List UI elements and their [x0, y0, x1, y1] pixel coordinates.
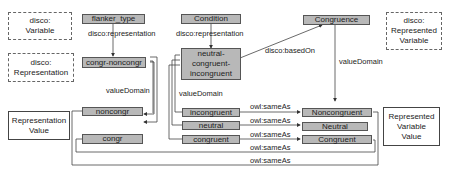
- node-neutral-congruent-incongruent: neutral- congruent- incongruent: [181, 48, 241, 80]
- disco-represented-variable-box: disco: Represented Variable: [386, 12, 442, 50]
- label-valuedomain-left: valueDomain: [106, 86, 150, 95]
- node-congruence: Congruence: [303, 15, 370, 25]
- label-valuedomain-mid: valueDomain: [179, 89, 223, 98]
- disco-variable-box: disco: Variable: [8, 12, 72, 40]
- node-incongruent: incongruent: [182, 108, 240, 117]
- label-sameas-1: owl:sameAs: [250, 102, 290, 111]
- node-congr-noncongr: congr-noncongr: [82, 57, 146, 68]
- represented-variable-value-box: Represented Variable Value: [383, 107, 440, 146]
- node-Neutral: Neutral: [302, 122, 368, 131]
- node-Noncongruent: Noncongruent: [302, 108, 372, 117]
- node-neutral: neutral: [182, 121, 240, 130]
- label-sameas-4: owl:sameAs: [250, 143, 290, 152]
- label-flanker-representation: disco:representation: [88, 29, 156, 38]
- node-condition: Condition: [181, 14, 241, 24]
- label-sameas-5: owl:sameAs: [250, 156, 290, 165]
- node-noncongr: noncongr: [82, 107, 143, 116]
- label-sameas-2: owl:sameAs: [250, 116, 290, 125]
- representation-value-box: Representation Value: [8, 111, 70, 140]
- node-Congruent: Congruent: [302, 135, 372, 144]
- label-sameas-3: owl:sameAs: [250, 130, 290, 139]
- disco-representation-box: disco: Representation: [8, 53, 74, 82]
- label-valuedomain-right: valueDomain: [339, 57, 383, 66]
- label-condition-representation: disco:representation: [176, 29, 244, 38]
- label-based-on: disco:basedOn: [265, 46, 315, 55]
- node-congruent: congruent: [182, 135, 240, 144]
- node-flanker-type: flanker_type: [82, 14, 145, 24]
- node-congr: congr: [82, 134, 143, 144]
